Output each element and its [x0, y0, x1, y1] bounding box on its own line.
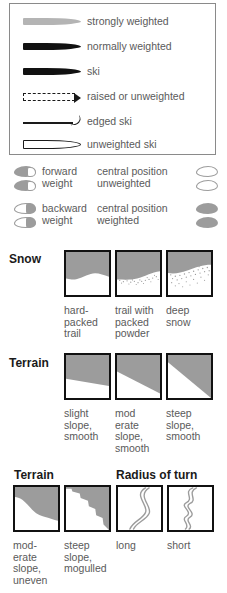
legend-row: edged ski: [10, 109, 215, 134]
snow-section-title: Snow: [9, 252, 41, 266]
terrain-uneven-section-title: Terrain: [14, 468, 54, 482]
deep-snow-tile: [166, 250, 213, 297]
ski-technique-legend-page: strongly weighted normally weighted ski …: [0, 0, 227, 593]
legend-row: ski: [10, 59, 215, 84]
terrain-tile-caption: slight slope, smooth: [64, 408, 112, 443]
legend-row: strongly weighted: [10, 9, 215, 34]
terrain-tile-caption: steep slope, smooth: [166, 408, 216, 443]
hollow-outline-ski-icon: [10, 132, 87, 157]
legend-item-label: edged ski: [87, 116, 132, 127]
slight-slope-tile: [64, 353, 111, 400]
radius-tile-caption: long: [116, 540, 164, 552]
snow-tile-caption: trail with packed powder: [115, 305, 167, 340]
steep-slope-tile: [166, 353, 213, 400]
unweighted-sole-icon: [196, 166, 218, 191]
dashed-outline-ski-arrow-icon: [10, 84, 87, 109]
hard-packed-trail-tile: [64, 250, 111, 297]
thin-line-edged-ski-icon: [10, 109, 87, 134]
central-position-weighted-label: central position weighted: [97, 202, 168, 226]
weighted-sole-icon: [196, 203, 218, 228]
long-radius-track-tile: [116, 485, 163, 532]
moderate-uneven-tile: [13, 485, 60, 532]
central-position-unweighted-label: central position unweighted: [97, 165, 168, 189]
backward-weight-label: backward weight: [42, 202, 87, 226]
moderate-slope-tile: [115, 353, 162, 400]
terrain-uneven-tile-caption: steep slope, mogulled: [64, 540, 116, 575]
packed-powder-tile: [115, 250, 162, 297]
legend-item-label: ski: [87, 66, 100, 77]
legend-item-label: raised or unweighted: [87, 91, 184, 102]
radius-tile-caption: short: [167, 540, 215, 552]
legend-item-label: normally weighted: [87, 41, 172, 52]
weight-position-block: forward weight central position unweight…: [0, 163, 227, 241]
legend-item-label: unweighted ski: [87, 139, 156, 150]
legend-row: normally weighted: [10, 34, 215, 59]
radius-section-title: Radius of turn: [116, 468, 197, 482]
short-radius-track-tile: [167, 485, 214, 532]
legend-item-label: strongly weighted: [87, 16, 169, 27]
black-tapered-ski-icon: [10, 59, 87, 84]
black-tapered-ski-icon: [10, 34, 87, 59]
forward-weight-sole-icon: [14, 166, 36, 191]
legend-box: strongly weighted normally weighted ski …: [9, 3, 216, 155]
terrain-smooth-section-title: Terrain: [9, 356, 49, 370]
gray-tapered-ski-icon: [10, 9, 87, 34]
snow-tile-caption: hard- packed trail: [64, 305, 112, 340]
steep-mogulled-tile: [64, 485, 111, 532]
snow-tile-caption: deep snow: [166, 305, 216, 328]
legend-row: unweighted ski: [10, 132, 215, 157]
backward-weight-sole-icon: [14, 203, 36, 228]
legend-row: raised or unweighted: [10, 84, 215, 109]
terrain-tile-caption: mod erate slope, smooth: [115, 408, 163, 454]
forward-weight-label: forward weight: [42, 165, 77, 189]
terrain-uneven-tile-caption: mod- erate slope, uneven: [13, 540, 61, 586]
